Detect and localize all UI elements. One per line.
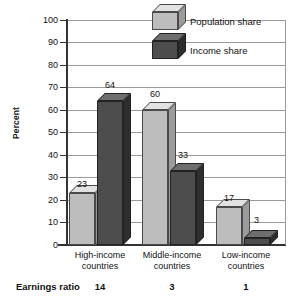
data-label-population-low-income: 17 [224,194,234,203]
category-line-2: countries [60,261,140,272]
bar-chart: Percent 100 90 80 70 60 50 40 30 20 10 0 [0,0,294,301]
category-line-1: High-income [60,250,140,261]
y-tick-0: 0 [30,241,58,250]
cube-dark-icon [152,41,178,59]
gridline-70 [68,87,286,88]
legend-cube-front [152,41,178,59]
bar-income-high-income [97,101,123,245]
bar-side-face [123,93,131,245]
y-axis-title: Percent [11,93,21,153]
bar-front-face [216,207,242,245]
x-category-label-high-income: High-income countries [60,250,140,272]
y-tick-20: 20 [30,196,58,205]
data-label-income-middle-income: 33 [178,151,188,160]
bar-front-face [170,171,196,245]
earnings-ratio-value-low-income: 1 [226,281,266,292]
y-tick-80: 80 [30,61,58,70]
y-tick-40: 40 [30,151,58,160]
category-line-2: countries [206,261,286,272]
x-category-label-middle-income: Middle-income countries [130,250,214,272]
x-category-label-low-income: Low-income countries [206,250,286,272]
y-tick-30: 30 [30,173,58,182]
cube-light-icon [152,12,178,30]
category-line-1: Low-income [206,250,286,261]
category-line-1: Middle-income [130,250,214,261]
y-tick-60: 60 [30,106,58,115]
bar-income-middle-income [170,171,196,245]
data-label-income-high-income: 64 [105,81,115,90]
y-tick-50: 50 [30,128,58,137]
earnings-ratio-label: Earnings ratio [16,281,80,292]
category-line-2: countries [130,261,214,272]
data-label-population-middle-income: 60 [150,90,160,99]
earnings-ratio-value-high-income: 14 [80,281,120,292]
plot-right-border [285,20,286,245]
bar-front-face [244,238,270,245]
data-label-population-high-income: 23 [77,180,87,189]
bar-population-middle-income [142,110,168,245]
bar-front-face [142,110,168,245]
gridline-80 [68,65,286,66]
bar-population-low-income [216,207,242,245]
bar-side-face [196,163,204,245]
bar-population-high-income [69,193,95,245]
bar-front-face [97,101,123,245]
earnings-ratio-value-middle-income: 3 [152,281,192,292]
data-label-income-low-income: 3 [254,216,259,225]
y-tick-100: 100 [30,16,58,25]
legend-label-income-share: Income share [190,46,248,56]
y-tick-70: 70 [30,83,58,92]
y-tick-90: 90 [30,38,58,47]
bar-front-face [69,193,95,245]
bar-income-low-income [244,238,270,245]
legend-cube-front [152,12,178,30]
legend-label-population-share: Population share [190,17,261,27]
y-tick-10: 10 [30,218,58,227]
